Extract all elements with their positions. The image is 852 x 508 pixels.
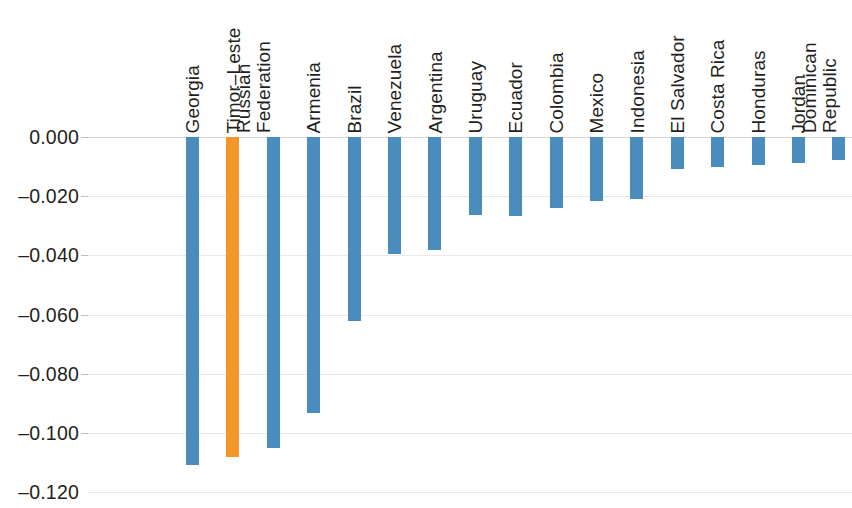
y-tick-mark: [81, 315, 88, 316]
y-tick-label: –0.080: [18, 362, 79, 385]
y-tick-mark: [81, 255, 88, 256]
category-label: Russian Federation: [234, 41, 273, 133]
y-tick-mark: [81, 433, 88, 434]
bar[interactable]: [671, 137, 684, 169]
category-label: Mexico: [587, 72, 607, 133]
y-tick-label: –0.120: [18, 481, 79, 504]
y-tick-label: –0.020: [18, 185, 79, 208]
bar[interactable]: [550, 137, 563, 208]
bar[interactable]: [469, 137, 482, 215]
bars-layer: [88, 137, 852, 492]
category-label: Honduras: [748, 50, 768, 133]
category-label: Georgia: [183, 65, 203, 133]
bar[interactable]: [792, 137, 805, 163]
y-tick-label: –0.060: [18, 303, 79, 326]
category-label: Armenia: [304, 62, 324, 133]
category-label: Colombia: [546, 52, 566, 133]
bar[interactable]: [348, 137, 361, 321]
bar[interactable]: [226, 137, 239, 457]
bar[interactable]: [752, 137, 765, 165]
category-label: Uruguay: [466, 60, 486, 133]
plot-area: [88, 137, 852, 492]
category-label: El Salvador: [668, 35, 688, 133]
bar-chart: 0.000–0.020–0.040–0.060–0.080–0.100–0.12…: [0, 0, 852, 508]
bar[interactable]: [388, 137, 401, 254]
bar[interactable]: [307, 137, 320, 413]
category-label: Brazil: [344, 85, 364, 133]
category-label: Venezuela: [385, 43, 405, 133]
bar[interactable]: [832, 137, 845, 160]
category-label: Dominican Republic: [800, 42, 839, 133]
x-axis-category-labels: GeorgiaTimor–LesteRussian FederationArme…: [88, 0, 852, 137]
category-label: Costa Rica: [708, 39, 728, 133]
bar[interactable]: [267, 137, 280, 448]
y-tick-mark: [81, 196, 88, 197]
category-label: Ecuador: [506, 62, 526, 133]
bar[interactable]: [711, 137, 724, 167]
y-axis: 0.000–0.020–0.040–0.060–0.080–0.100–0.12…: [0, 0, 88, 508]
y-tick-label: –0.100: [18, 421, 79, 444]
category-label: Argentina: [425, 51, 445, 133]
y-tick-label: 0.000: [29, 126, 79, 149]
bar[interactable]: [428, 137, 441, 250]
bar[interactable]: [630, 137, 643, 199]
bar[interactable]: [509, 137, 522, 216]
y-tick-mark: [81, 374, 88, 375]
bar[interactable]: [590, 137, 603, 201]
bar[interactable]: [186, 137, 199, 465]
category-label: Indonesia: [627, 50, 647, 133]
y-tick-label: –0.040: [18, 244, 79, 267]
gridline: [88, 492, 852, 493]
y-tick-mark: [81, 137, 88, 138]
